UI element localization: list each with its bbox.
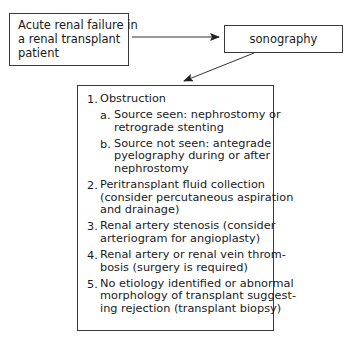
item-number: 1. <box>87 93 98 106</box>
arrow-sonography-to-results <box>184 53 254 81</box>
item-number: 4. <box>87 249 98 262</box>
result-item-rejection: 5. No etiology identified or abnormal mo… <box>78 278 273 316</box>
item-text: Peritransplant fluid collection <box>100 179 273 192</box>
result-item-obstruction: 1. Obstruction a. Source seen: nephrosto… <box>78 93 273 176</box>
result-item-fluid-collection: 2. Peritransplant fluid collection (cons… <box>78 179 273 217</box>
item-text: and drainage) <box>100 204 273 217</box>
subitem-text: retrograde stenting <box>114 122 273 135</box>
subitem-text: nephrostomy <box>114 163 273 176</box>
item-text: arteriogram for angioplasty) <box>100 233 273 246</box>
start-node-line: a renal transplant <box>18 32 120 46</box>
sonography-node-box: sonography <box>224 25 343 53</box>
start-node-line: patient <box>18 46 120 60</box>
item-text: bosis (surgery is required) <box>100 262 273 275</box>
subitem-letter: b. <box>100 138 111 151</box>
item-number: 2. <box>87 179 98 192</box>
item-text: Obstruction <box>100 93 273 106</box>
start-node-box: Acute renal failure in a renal transplan… <box>9 13 129 66</box>
subitem-letter: a. <box>100 109 111 122</box>
sonography-label: sonography <box>250 32 318 46</box>
results-node-box: 1. Obstruction a. Source seen: nephrosto… <box>77 85 274 331</box>
item-number: 5. <box>87 278 98 291</box>
start-node-line: Acute renal failure in <box>18 18 120 32</box>
subitem-source-not-seen: b. Source not seen: antegrade pyelograph… <box>78 138 273 176</box>
subitem-source-seen: a. Source seen: nephrostomy or retrograd… <box>78 109 273 134</box>
item-text: ing rejection (transplant biopsy) <box>100 303 273 316</box>
subitem-text: Source seen: nephrostomy or <box>114 109 273 122</box>
item-number: 3. <box>87 220 98 233</box>
result-item-thrombosis: 4. Renal artery or renal vein throm- bos… <box>78 249 273 274</box>
result-item-artery-stenosis: 3. Renal artery stenosis (consider arter… <box>78 220 273 245</box>
item-text: Renal artery or renal vein throm- <box>100 249 273 262</box>
